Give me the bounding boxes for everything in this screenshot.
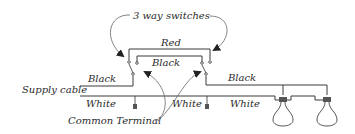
black-load-wire-bulb2	[283, 85, 327, 95]
annotation-arrow-left	[110, 15, 130, 56]
supply-cable-label: Supply cable	[22, 84, 87, 95]
light-bulb-1	[273, 97, 293, 126]
common-terminal-label: Common Terminal	[68, 115, 161, 126]
black-traveler-label: Black	[151, 57, 180, 68]
left-3way-switch	[128, 61, 139, 76]
white-supply-label: White	[86, 98, 116, 109]
black-supply-label: Black	[87, 73, 116, 84]
black-load-label: Black	[227, 72, 256, 83]
red-label: Red	[160, 37, 181, 48]
annotation-arrow-right	[210, 16, 227, 50]
white-splice-left	[133, 96, 137, 109]
white-load-label: White	[230, 98, 260, 109]
right-3way-switch	[201, 61, 212, 76]
light-bulb-2	[317, 97, 337, 126]
white-splice-right	[205, 96, 209, 109]
switches-annotation: 3 way switches	[133, 10, 210, 21]
white-mid-label: White	[172, 98, 202, 109]
wiring-diagram: 3 way switches Red Black Black Black Sup…	[0, 0, 355, 134]
white-wire-bulb-link	[286, 96, 324, 100]
